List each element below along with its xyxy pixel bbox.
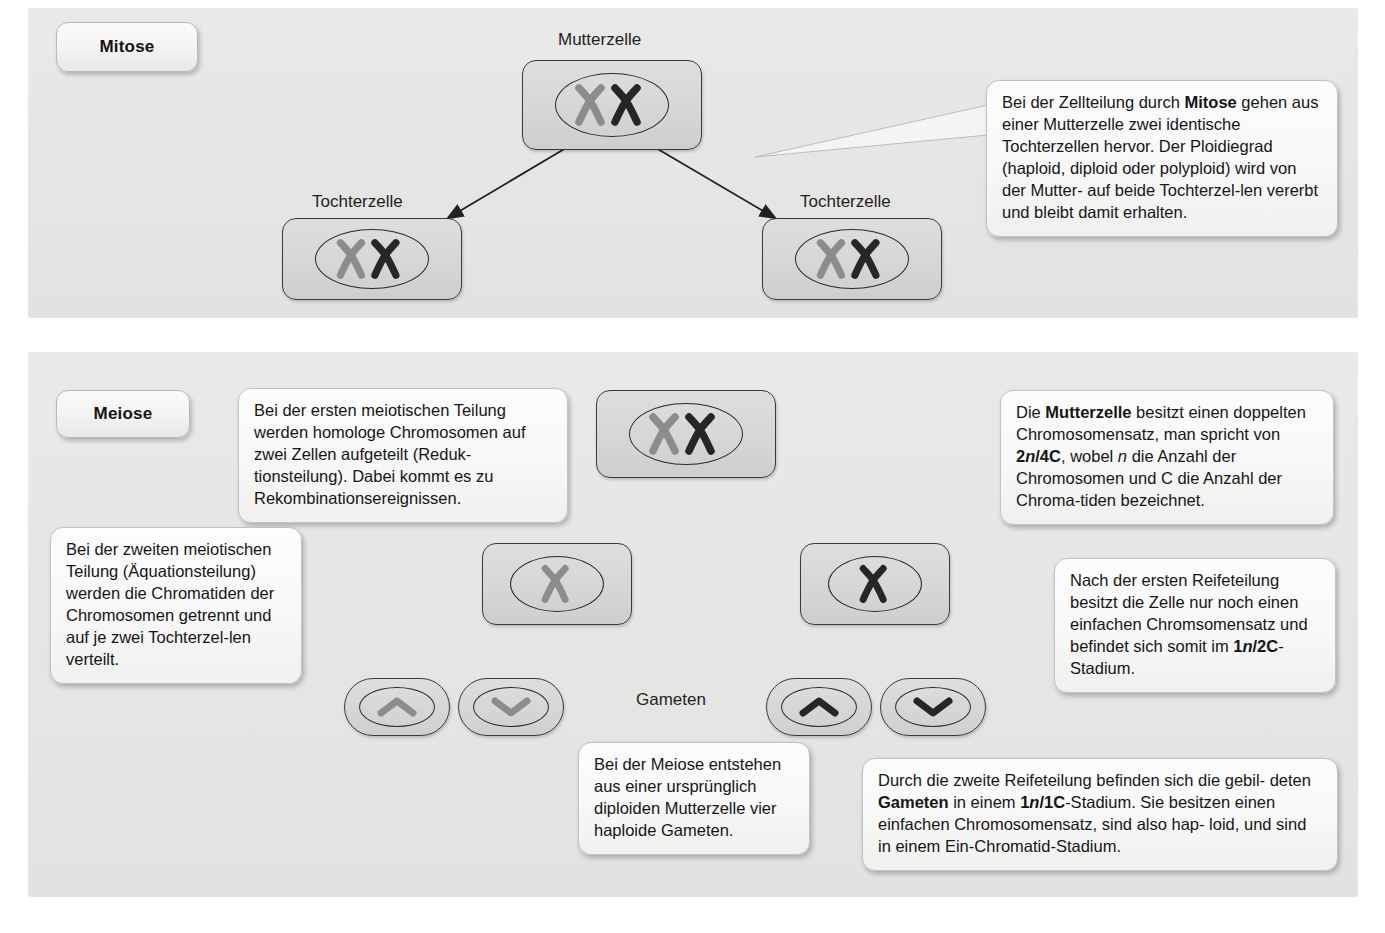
term-2n4c-prefix: 2 [1016,447,1025,465]
label-tochterzelle-right: Tochterzelle [800,192,891,212]
nucleus [510,556,604,612]
section-tag-mitose: Mitose [56,22,198,72]
callout-line: gehen [1237,93,1287,111]
term-2n4c-suffix: /4C [1035,447,1061,465]
term-1n2c-suffix: /2C [1253,637,1279,655]
callout-line: Bei der zweiten meiotischen [66,540,271,558]
term-n-italic: n [1029,793,1039,811]
callout-line: (haploid, diploid oder polyploid) wird [1002,159,1265,177]
nucleus [359,687,435,727]
label-tochterzelle-left: Tochterzelle [312,192,403,212]
nucleus [795,229,909,289]
chromosome-pair-icon [807,237,897,281]
callout-line: man spricht von [1164,425,1280,443]
chromatid-down-icon [488,696,534,718]
callout-gameten-stage: Durch die zweite Reifeteilung befinden s… [862,758,1338,871]
label-gameten: Gameten [636,690,706,710]
callout-first-meiotic-division: Bei der ersten meiotischen Teilung werde… [238,388,568,523]
callout-mitose-description: Bei der Zellteilung durch Mitose gehen a… [986,80,1338,237]
section-tag-mitose-label: Mitose [99,37,154,57]
callout-line: Die [1016,403,1045,421]
cell-mutterzelle-mitose [522,60,702,150]
section-tag-meiose-label: Meiose [94,404,153,424]
callout-line: Rekombinationsereignissen. [254,489,461,507]
chromosome-pair-icon [327,237,417,281]
nucleus [895,687,971,727]
chromosome-single-icon [853,563,897,605]
callout-line: Teilung (Äquationsteilung) [66,562,256,580]
cell-mutterzelle-meiose [596,390,776,478]
callout-four-haploid-gametes: Bei der Meiose entstehen aus einer urspr… [578,742,810,855]
callout-line: Tochterzellen hervor. Der Ploidiegrad [1002,137,1273,155]
callout-line: einfachen Chromsomensatz [1070,615,1275,633]
callout-line: Bei der Meiose entstehen [594,755,781,773]
section-tag-meiose: Meiose [56,390,190,438]
callout-line: aus einer ursprünglich [594,777,756,795]
chromatid-up-icon [796,696,842,718]
cell-meiose-right [800,543,950,625]
gamete-4 [880,678,986,736]
term-1n1c-prefix: 1 [1020,793,1029,811]
callout-line: Durch die zweite Reifeteilung befinden s… [878,771,1265,789]
nucleus [555,73,669,137]
callout-line: Bei der Zellteilung durch [1002,93,1185,111]
callout-second-meiotic-division: Bei der zweiten meiotischen Teilung (Äqu… [50,527,302,684]
diagram-stage: Mitose [0,0,1385,933]
term-1n1c-suffix: /1C [1039,793,1065,811]
callout-line: diploiden Mutterzelle vier [594,799,777,817]
chromosome-pair-icon [567,82,657,128]
cell-meiose-left [482,543,632,625]
term-mitose: Mitose [1185,93,1237,111]
chromatid-down-icon [910,696,956,718]
term-gameten: Gameten [878,793,949,811]
gamete-3 [766,678,872,736]
term-n-italic: n [1118,447,1127,465]
gamete-2 [458,678,564,736]
nucleus [315,229,429,289]
callout-line: Nach der ersten Reifeteilung [1070,571,1279,589]
nucleus [828,556,922,612]
term-n-italic: n [1242,637,1252,655]
callout-line: tionsteilung). Dabei kommt es zu [254,467,493,485]
nucleus [629,403,743,465]
callout-line: werden homologe Chromosomen [254,423,498,441]
callout-line: haploide Gameten. [594,821,733,839]
label-mutterzelle-mitose: Mutterzelle [558,30,641,50]
callout-line: Bei der ersten meiotischen Teilung [254,401,506,419]
callout-mutterzelle-2n4c: Die Mutterzelle besitzt einen doppelten … [1000,390,1334,525]
cell-tochterzelle-right [762,218,942,300]
chromatid-up-icon [374,696,420,718]
chromosome-pair-icon [641,411,731,457]
callout-line: besitzt die Zelle nur noch einen [1070,593,1298,611]
gamete-1 [344,678,450,736]
callout-line: , wobel [1061,447,1118,465]
chromosome-single-icon [535,563,579,605]
cell-tochterzelle-left [282,218,462,300]
callout-line: besitzt einen [1132,403,1229,421]
callout-line: tiden bezeichnet. [1080,491,1205,509]
callout-after-first-division: Nach der ersten Reifeteilung besitzt die… [1054,558,1336,693]
nucleus [781,687,857,727]
callout-line: werden die Chromatiden [66,584,246,602]
term-mutterzelle: Mutterzelle [1045,403,1131,421]
nucleus [473,687,549,727]
callout-line: -Stadium. Sie besitzen [1065,793,1230,811]
callout-line: in einem [949,793,1021,811]
term-n-italic: n [1025,447,1035,465]
callout-line: deten [1270,771,1311,789]
